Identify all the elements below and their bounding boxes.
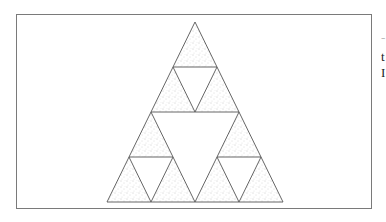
- filled-sub-triangle: [217, 112, 261, 157]
- filled-sub-triangle: [239, 157, 283, 202]
- sierpinski-shape: [107, 22, 283, 202]
- filled-sub-triangle: [107, 157, 151, 202]
- filled-sub-triangle: [129, 112, 173, 157]
- filled-sub-triangle: [195, 67, 239, 112]
- sierpinski-triangle-figure: [0, 0, 386, 222]
- filled-sub-triangle: [151, 67, 195, 112]
- clipped-text-fragment: I: [381, 66, 386, 79]
- clipped-text-fragment: -: [381, 31, 386, 44]
- filled-sub-triangle: [195, 157, 239, 202]
- filled-sub-triangle: [151, 157, 195, 202]
- clipped-text-fragment: t: [381, 50, 386, 63]
- filled-sub-triangle: [173, 22, 217, 67]
